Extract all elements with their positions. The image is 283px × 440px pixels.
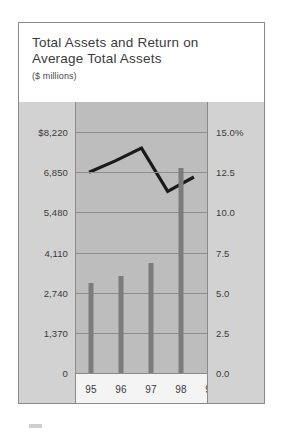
gridline: [76, 253, 207, 254]
chart-figure: Total Assets and Return on Average Total…: [18, 22, 265, 404]
left-axis-tick: 0: [63, 368, 68, 379]
chart-panels: $8,2206,8505,4804,1102,7401,3700 9596979…: [19, 102, 264, 403]
gridline: [76, 212, 207, 213]
right-axis-tick: 15.0%: [216, 127, 243, 138]
gridline: [76, 333, 207, 334]
left-axis-panel: $8,2206,8505,4804,1102,7401,3700: [19, 102, 76, 403]
x-axis-label-97: 97: [145, 383, 157, 394]
right-axis-tick: 5.0: [216, 287, 230, 298]
gridline: [76, 293, 207, 294]
bar-95: [89, 283, 94, 373]
x-axis-label-98: 98: [175, 383, 187, 394]
bar-96: [119, 276, 124, 373]
x-axis-label-95: 95: [85, 383, 97, 394]
left-axis-tick: 6,850: [44, 167, 68, 178]
left-axis-tick: $8,220: [38, 127, 68, 138]
page-title: Total Assets and Return on Average Total…: [32, 35, 264, 66]
plot-area: [76, 102, 207, 373]
bar-98: [179, 168, 184, 373]
gridline: [76, 172, 207, 173]
gridline: [76, 132, 207, 133]
title-block: Total Assets and Return on Average Total…: [19, 23, 264, 102]
left-axis-tick: 1,370: [44, 327, 68, 338]
left-axis-tick: 5,480: [44, 207, 68, 218]
right-axis-tick: 2.5: [216, 327, 230, 338]
right-axis-tick: 0.0: [216, 368, 230, 379]
left-axis-tick: 2,740: [44, 287, 68, 298]
right-axis-tick: 7.5: [216, 247, 230, 258]
scan-artifact: [29, 424, 42, 428]
chart-subtitle: ($ millions): [32, 71, 264, 81]
left-axis-tick: 4,110: [44, 247, 68, 258]
plot-column: 9596979899: [76, 102, 207, 403]
x-axis-label-96: 96: [115, 383, 127, 394]
right-axis-tick: 10.0: [216, 207, 235, 218]
bar-97: [149, 263, 154, 373]
right-axis-tick: 12.5: [216, 167, 235, 178]
x-axis-strip: 9596979899: [76, 373, 207, 403]
right-axis-panel: 15.0%12.510.07.55.02.50.0: [207, 102, 264, 403]
